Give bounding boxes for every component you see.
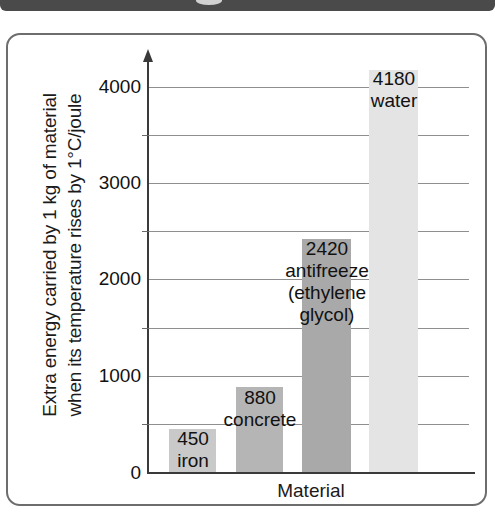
top-header-strip — [0, 0, 495, 11]
ytick-label-0: 0 — [69, 462, 141, 484]
ytick-label-2000: 2000 — [69, 268, 141, 290]
bar-name-antifreeze-line-3: glycol) — [266, 304, 388, 326]
y-axis-title-line-1: Extra energy carried by 1 kg of material — [37, 50, 62, 460]
plot-area: 0 1000 2000 3000 4000 450 iron 880 concr… — [147, 49, 475, 473]
ytick-minor-2500 — [142, 231, 149, 232]
bar-name-antifreeze-line-2: (ethylene — [266, 282, 388, 304]
x-axis-line — [147, 472, 475, 474]
bar-name-water: water — [358, 90, 430, 112]
ytick-label-3000: 3000 — [69, 172, 141, 194]
ytick-minor-3500 — [142, 135, 149, 136]
bar-value-water: 4180 — [358, 68, 430, 90]
header-highlight — [196, 0, 222, 5]
ytick-minor-500 — [142, 424, 149, 425]
y-axis-line — [147, 60, 149, 473]
bar-value-concrete: 880 — [224, 387, 296, 409]
y-axis-title: Extra energy carried by 1 kg of material… — [37, 50, 87, 460]
bar-value-iron: 450 — [157, 428, 229, 450]
bar-value-antifreeze: 2420 — [291, 238, 363, 260]
figure-frame: Extra energy carried by 1 kg of material… — [6, 33, 487, 506]
bar-name-antifreeze-line-1: antifreeze — [266, 260, 388, 282]
y-axis-title-line-2: when its temperature rises by 1°C/joule — [62, 50, 87, 460]
arrow-up-icon — [143, 49, 153, 62]
ytick-label-4000: 4000 — [69, 76, 141, 98]
gridline-3000 — [149, 183, 469, 184]
bar-name-iron: iron — [157, 450, 229, 472]
ytick-label-1000: 1000 — [69, 365, 141, 387]
x-axis-title: Material — [147, 480, 475, 502]
gridline-2500 — [149, 231, 469, 232]
ytick-minor-1500 — [142, 328, 149, 329]
bar-name-concrete: concrete — [205, 409, 315, 431]
gridline-3500 — [149, 135, 469, 136]
